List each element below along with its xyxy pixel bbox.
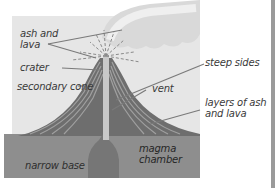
edge-bar xyxy=(271,0,275,188)
label-secondary-cone: secondary cone xyxy=(17,81,93,92)
label-layers-of-ash-and-lava: layers of ash and lava xyxy=(205,97,266,119)
label-vent: vent xyxy=(152,83,174,94)
label-magma-chamber: magma chamber xyxy=(139,143,182,165)
label-crater: crater xyxy=(20,62,49,73)
volcano-diagram: ash and lava crater secondary cone steep… xyxy=(0,0,276,188)
label-steep-sides: steep sides xyxy=(205,57,259,68)
vent-shape xyxy=(103,56,109,140)
eruption-cloud xyxy=(102,0,200,49)
label-narrow-base: narrow base xyxy=(25,160,85,171)
label-ash-and-lava: ash and lava xyxy=(20,28,58,50)
